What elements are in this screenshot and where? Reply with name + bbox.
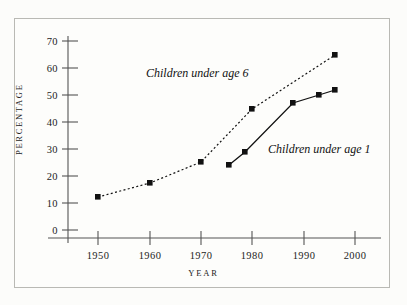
x-tick-label-1970: 1970 <box>190 250 213 261</box>
y-tick-label-60: 60 <box>34 63 58 74</box>
x-tick-label-2000: 2000 <box>344 250 367 261</box>
x-tick-label-1990: 1990 <box>293 250 316 261</box>
y-tick-label-70: 70 <box>34 36 58 47</box>
x-axis-title: YEAR <box>0 268 407 278</box>
x-tick-label-1960: 1960 <box>139 250 162 261</box>
y-tick-label-50: 50 <box>34 90 58 101</box>
y-tick-label-40: 40 <box>34 117 58 128</box>
series-annotation-children-under-age-6: Children under age 6 <box>146 66 249 81</box>
y-tick-label-0: 0 <box>34 225 58 236</box>
chart-figure: 70 60 50 40 30 20 10 0 1950 1960 1970 19… <box>0 0 407 305</box>
y-tick-label-30: 30 <box>34 144 58 155</box>
y-tick-label-20: 20 <box>34 171 58 182</box>
series-annotation-children-under-age-1: Children under age 1 <box>268 142 371 157</box>
y-axis-title: PERCENTAGE <box>14 83 24 155</box>
x-tick-label-1950: 1950 <box>87 250 110 261</box>
y-tick-label-10: 10 <box>34 198 58 209</box>
y-axis-ticks <box>62 41 78 230</box>
x-tick-label-1980: 1980 <box>241 250 264 261</box>
